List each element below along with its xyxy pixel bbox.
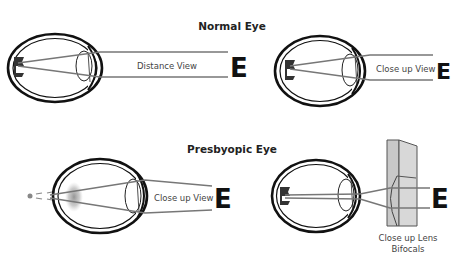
normal-eye-closeup-panel: Close up View E — [275, 36, 451, 106]
bifocal-lens-icon — [387, 140, 417, 226]
bifocal-label-line2: Bifocals — [391, 244, 425, 254]
eyeball-icon — [8, 34, 102, 102]
normal-eye-title: Normal Eye — [198, 20, 266, 32]
normal-eye-distance-panel: Distance View E — [8, 34, 248, 102]
eyeball-icon — [275, 36, 365, 106]
close-up-view-label: Close up View — [376, 64, 436, 74]
eye-diagram: Normal Eye Presbyopic Eye Distance View … — [0, 0, 463, 260]
bifocal-label-line1: Close up Lens — [379, 233, 439, 243]
presbyopic-eye-closeup-panel: Close up View E — [28, 159, 232, 233]
target-letter-e: E — [436, 59, 451, 84]
target-letter-e: E — [214, 184, 232, 214]
close-up-view-label: Close up View — [154, 193, 214, 203]
target-letter-e: E — [230, 53, 248, 83]
presbyopic-eye-title: Presbyopic Eye — [187, 143, 277, 155]
presbyopic-eye-bifocal-panel: E Close up Lens Bifocals — [272, 140, 449, 254]
focal-point-beyond-retina — [28, 192, 53, 200]
target-letter-e: E — [431, 184, 449, 214]
eyeball-icon — [272, 160, 360, 232]
distance-view-label: Distance View — [137, 61, 197, 71]
blur-spot — [65, 182, 83, 212]
